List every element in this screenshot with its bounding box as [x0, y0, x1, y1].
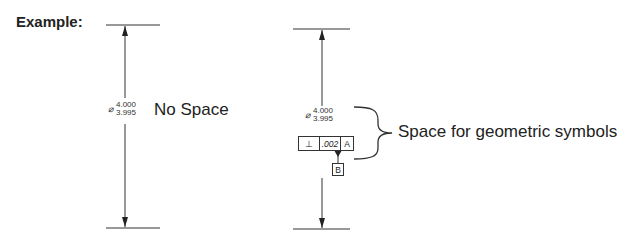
left-dimension-callout: ⌀ 4.000 3.995 [108, 101, 136, 117]
lower-limit: 3.995 [313, 115, 333, 123]
datum-feature-box: B [332, 163, 344, 176]
space-caption: Space for geometric symbols [398, 122, 617, 142]
perpendicularity-icon: ⊥ [299, 137, 320, 150]
lower-limit: 3.995 [116, 109, 136, 117]
diameter-icon: ⌀ [108, 104, 113, 114]
feature-control-frame: ⊥ .002 A [298, 136, 354, 151]
diameter-icon: ⌀ [305, 110, 310, 120]
right-dimension-callout: ⌀ 4.000 3.995 [305, 107, 333, 123]
no-space-caption: No Space [154, 100, 229, 120]
datum-reference: A [341, 137, 353, 150]
tolerance-value: .002 [320, 137, 341, 150]
